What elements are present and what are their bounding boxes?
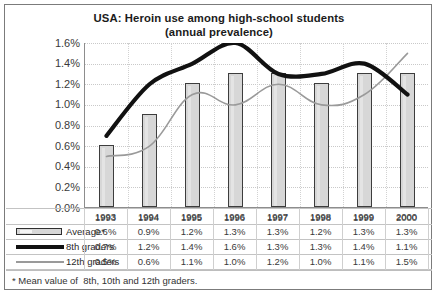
table-cell: 1.3% bbox=[299, 239, 342, 254]
line-8th-graders bbox=[107, 43, 408, 136]
chart-frame: USA: Heroin use among high-school studen… bbox=[4, 4, 432, 290]
table-cell: 1.0% bbox=[213, 254, 256, 269]
table-cell: 1.2% bbox=[299, 224, 342, 239]
plot-area: 1.6%1.4%1.2%1.0%0.8%0.6%0.4%0.2%0.0% bbox=[84, 43, 428, 208]
table-header-1996: 1996 bbox=[213, 209, 256, 224]
table-cell: 1.2% bbox=[256, 254, 299, 269]
table-header-1995: 1995 bbox=[170, 209, 213, 224]
y-axis-tick-label: 1.2% bbox=[34, 79, 80, 90]
table-cell: 0.6% bbox=[127, 254, 170, 269]
table-cell: 1.1% bbox=[342, 254, 385, 269]
table-header-1999: 1999 bbox=[342, 209, 385, 224]
table-column-divider bbox=[428, 208, 429, 270]
table-header-1998: 1998 bbox=[299, 209, 342, 224]
footnote-divider bbox=[6, 270, 432, 271]
table-cell: 0.7% bbox=[84, 239, 127, 254]
table-row: Average*0.6%0.9%1.2%1.3%1.3%1.2%1.3%1.3% bbox=[6, 224, 432, 239]
table-cell: 1.3% bbox=[213, 224, 256, 239]
table-column-divider bbox=[170, 208, 171, 270]
table-column-divider bbox=[385, 208, 386, 270]
table-cell: 0.6% bbox=[84, 224, 127, 239]
table-cell: 1.4% bbox=[342, 239, 385, 254]
legend-swatch-8th-graders bbox=[16, 245, 64, 249]
y-axis-tick-label: 1.0% bbox=[34, 99, 80, 110]
legend-swatch-12th-graders bbox=[16, 261, 64, 263]
legend-swatch-average bbox=[16, 228, 62, 235]
y-axis-tick-label: 0.2% bbox=[34, 182, 80, 193]
table-cell: 1.2% bbox=[170, 224, 213, 239]
table-cell: 1.6% bbox=[213, 239, 256, 254]
table-cell: 1.3% bbox=[342, 224, 385, 239]
table-row: 8th graders0.7%1.2%1.4%1.6%1.3%1.3%1.4%1… bbox=[6, 239, 432, 254]
data-table: 19931994199519961997199819992000Average*… bbox=[6, 208, 432, 270]
table-column-divider bbox=[256, 208, 257, 270]
plot-area-wrapper: 1.6%1.4%1.2%1.0%0.8%0.6%0.4%0.2%0.0% bbox=[80, 43, 428, 211]
line-12th-graders bbox=[107, 53, 408, 156]
table-cell: 0.9% bbox=[127, 224, 170, 239]
table-cell: 1.4% bbox=[170, 239, 213, 254]
table-cell: 1.2% bbox=[127, 239, 170, 254]
table-cell: 1.1% bbox=[385, 239, 428, 254]
table-cell: 1.0% bbox=[299, 254, 342, 269]
table-column-divider bbox=[127, 208, 128, 270]
y-axis-tick-label: 0.4% bbox=[34, 161, 80, 172]
table-cell: 1.5% bbox=[385, 254, 428, 269]
table-cell: 0.5% bbox=[84, 254, 127, 269]
footnote: * Mean value of 8th, 10th and 12th grade… bbox=[12, 275, 197, 287]
table-header-2000: 2000 bbox=[385, 209, 428, 224]
table-row: 12th graders0.5%0.6%1.1%1.0%1.2%1.0%1.1%… bbox=[6, 254, 432, 269]
y-axis-tick-label: 1.4% bbox=[34, 58, 80, 69]
table-header-1993: 1993 bbox=[84, 209, 127, 224]
chart-title-line1: USA: Heroin use among high-school studen… bbox=[94, 12, 345, 24]
table-header-1997: 1997 bbox=[256, 209, 299, 224]
table-column-divider bbox=[342, 208, 343, 270]
table-header-1994: 1994 bbox=[127, 209, 170, 224]
y-axis-tick-label: 0.8% bbox=[34, 120, 80, 131]
table-cell: 1.3% bbox=[256, 224, 299, 239]
table-cell: 1.3% bbox=[385, 224, 428, 239]
table-header-row: 19931994199519961997199819992000 bbox=[6, 209, 432, 224]
table-column-divider bbox=[84, 208, 85, 270]
table-column-divider bbox=[213, 208, 214, 270]
y-axis-tick-label: 1.6% bbox=[34, 38, 80, 49]
table-column-divider bbox=[299, 208, 300, 270]
y-axis-tick-label: 0.6% bbox=[34, 141, 80, 152]
table-cell: 1.1% bbox=[170, 254, 213, 269]
table-cell: 1.3% bbox=[256, 239, 299, 254]
chart-title: USA: Heroin use among high-school studen… bbox=[5, 12, 433, 39]
line-series-layer bbox=[85, 43, 429, 208]
